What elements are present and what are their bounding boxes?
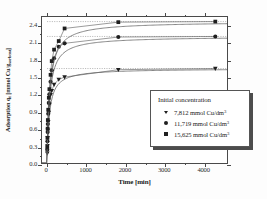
y-tick-minor bbox=[40, 104, 42, 105]
y-axis-title-unit: [mmol Cu/g bbox=[4, 64, 11, 96]
legend-item-exponent: 3 bbox=[227, 120, 229, 125]
y-tick-right bbox=[227, 26, 231, 27]
x-tick-top-minor bbox=[146, 15, 147, 17]
y-axis-title-sub: t bbox=[7, 96, 12, 97]
x-axis-title: Time [min] bbox=[41, 178, 228, 186]
y-axis-title-unit-sub: sorbent bbox=[7, 50, 12, 64]
y-tick-label: 2.4 bbox=[29, 21, 37, 28]
y-tick-major bbox=[38, 113, 42, 114]
data-point-marker bbox=[57, 39, 61, 43]
x-tick-top-minor bbox=[185, 15, 186, 17]
x-tick-minor bbox=[146, 163, 147, 165]
legend-marker-slot bbox=[158, 121, 174, 125]
y-axis-title-main: Adsorption q bbox=[4, 98, 11, 132]
legend-marker-slot bbox=[158, 132, 174, 136]
y-tick-right bbox=[227, 78, 231, 79]
data-point-marker bbox=[50, 59, 54, 63]
legend-item: 7,812 mmol Cu/dm3 bbox=[158, 107, 244, 118]
x-tick-minor bbox=[106, 163, 107, 165]
x-tick-label: 1000 bbox=[79, 167, 91, 174]
y-tick-major bbox=[38, 43, 42, 44]
legend-item: 15,625 mmol Cu/dm3 bbox=[158, 129, 244, 140]
x-tick-top bbox=[126, 13, 127, 17]
legend-item-label: 7,812 mmol Cu/dm3 bbox=[174, 109, 226, 116]
data-point-marker bbox=[48, 87, 52, 91]
y-axis-title-wrap: Adsorption qt [mmol Cu/gsorbent] bbox=[0, 16, 16, 164]
legend-item-value: 15,625 mmol Cu/dm bbox=[174, 131, 227, 138]
legend: Initial concentration 7,812 mmol Cu/dm31… bbox=[150, 90, 250, 147]
y-tick-major bbox=[38, 26, 42, 27]
y-tick-minor bbox=[40, 34, 42, 35]
y-axis-tick-labels: 0.00.30.60.91.21.51.82.12.4 bbox=[18, 16, 37, 164]
x-tick-minor bbox=[185, 163, 186, 165]
data-point-marker bbox=[116, 35, 120, 39]
y-tick-major bbox=[38, 165, 42, 166]
data-point-marker bbox=[46, 127, 50, 131]
x-tick-label: 2000 bbox=[119, 167, 131, 174]
y-tick-major bbox=[38, 130, 42, 131]
x-tick-top bbox=[205, 13, 206, 17]
x-tick-top bbox=[47, 13, 48, 17]
legend-item-exponent: 3 bbox=[227, 131, 229, 136]
y-tick-minor bbox=[40, 156, 42, 157]
y-tick-label: 1.5 bbox=[29, 74, 37, 81]
y-tick-label: 0.6 bbox=[29, 126, 37, 133]
x-tick-label: 3000 bbox=[158, 167, 170, 174]
triangle-down-marker-icon bbox=[164, 111, 168, 114]
data-point-marker bbox=[116, 20, 120, 24]
y-tick-major bbox=[38, 61, 42, 62]
data-point-marker bbox=[47, 96, 51, 100]
data-point-marker bbox=[52, 83, 57, 87]
y-tick-label: 2.1 bbox=[29, 39, 37, 46]
y-tick-minor bbox=[40, 121, 42, 122]
y-tick-minor bbox=[40, 139, 42, 140]
legend-item: 11,719 mmol Cu/dm3 bbox=[158, 118, 244, 129]
data-point-marker bbox=[46, 118, 50, 122]
x-tick-label: 4000 bbox=[197, 167, 209, 174]
x-tick-top-minor bbox=[106, 15, 107, 17]
legend-item-value: 7,812 mmol Cu/dm bbox=[174, 109, 224, 116]
y-tick-right bbox=[227, 165, 231, 166]
data-point-marker bbox=[213, 20, 217, 24]
y-tick-minor bbox=[40, 87, 42, 88]
legend-marker-slot bbox=[158, 111, 174, 114]
legend-item-value: 11,719 mmol Cu/dm bbox=[174, 120, 227, 127]
legend-item-exponent: 3 bbox=[224, 109, 226, 114]
x-tick-label: 0 bbox=[45, 167, 48, 174]
x-tick-top bbox=[165, 13, 166, 17]
x-tick-top bbox=[86, 13, 87, 17]
legend-item-label: 11,719 mmol Cu/dm3 bbox=[174, 120, 229, 127]
y-tick-label: 0.9 bbox=[29, 108, 37, 115]
chart-figure: Adsorption qt [mmol Cu/gsorbent] 0.00.30… bbox=[0, 0, 267, 199]
square-marker-icon bbox=[164, 132, 168, 136]
data-point-marker bbox=[45, 145, 49, 149]
legend-item-label: 15,625 mmol Cu/dm3 bbox=[174, 131, 229, 138]
data-point-marker bbox=[63, 27, 67, 31]
y-tick-label: 0.0 bbox=[29, 161, 37, 168]
x-axis-tick-labels: 01000200030004000 bbox=[41, 167, 228, 177]
y-tick-major bbox=[38, 148, 42, 149]
y-tick-major bbox=[38, 95, 42, 96]
y-tick-right bbox=[227, 43, 231, 44]
y-tick-label: 1.2 bbox=[29, 91, 37, 98]
data-point-marker bbox=[213, 34, 217, 38]
y-tick-minor bbox=[40, 52, 42, 53]
x-tick-minor bbox=[67, 163, 68, 165]
y-axis-title-unit-end: ] bbox=[4, 48, 11, 50]
legend-title: Initial concentration bbox=[158, 96, 244, 103]
y-tick-minor bbox=[40, 69, 42, 70]
x-tick-top-minor bbox=[67, 15, 68, 17]
y-tick-label: 0.3 bbox=[29, 143, 37, 150]
circle-marker-icon bbox=[164, 121, 168, 125]
y-tick-right bbox=[227, 61, 231, 62]
y-tick-major bbox=[38, 78, 42, 79]
data-point-marker bbox=[52, 48, 56, 52]
data-point-marker bbox=[49, 73, 53, 77]
y-tick-label: 1.8 bbox=[29, 56, 37, 63]
data-point-marker bbox=[46, 136, 50, 140]
y-axis-title: Adsorption qt [mmol Cu/gsorbent] bbox=[4, 48, 12, 132]
legend-rows: 7,812 mmol Cu/dm311,719 mmol Cu/dm315,62… bbox=[158, 107, 244, 140]
data-point-marker bbox=[46, 108, 50, 112]
